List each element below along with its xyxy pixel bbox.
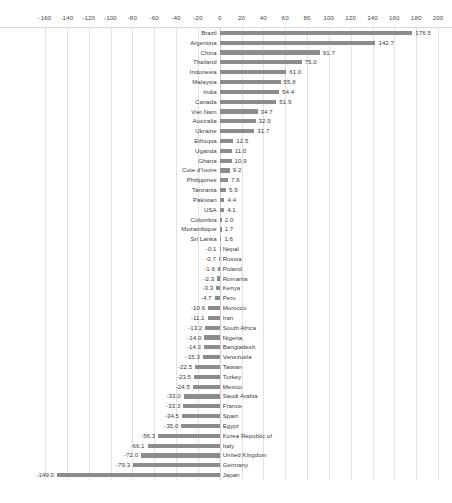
bar bbox=[148, 444, 220, 448]
bar-row: Cote d'Ivoire9.2 bbox=[0, 166, 452, 176]
category-label: Venezuela bbox=[223, 354, 252, 360]
value-label: 12.5 bbox=[236, 138, 248, 144]
category-label: Japan bbox=[223, 472, 240, 478]
x-tick-120: 120 bbox=[345, 14, 356, 21]
value-label: 1.6 bbox=[224, 236, 233, 242]
x-tick-20: 20 bbox=[238, 14, 245, 21]
bar bbox=[220, 109, 258, 113]
x-tick-neg160: -160 bbox=[39, 14, 52, 21]
value-label: 34.7 bbox=[261, 108, 273, 114]
bar bbox=[195, 365, 220, 369]
value-label: 10.9 bbox=[235, 158, 247, 164]
value-label: -15.3 bbox=[186, 354, 200, 360]
bar bbox=[220, 100, 277, 104]
category-label: Ghana bbox=[198, 158, 217, 164]
category-label: Tanzania bbox=[192, 187, 217, 193]
bar bbox=[204, 345, 220, 349]
bar bbox=[216, 286, 220, 290]
category-label: South Africa bbox=[223, 325, 256, 331]
category-label: Brazil bbox=[201, 30, 217, 36]
category-label: Mozambique bbox=[181, 226, 216, 232]
x-tick-40: 40 bbox=[260, 14, 267, 21]
bar bbox=[220, 129, 255, 133]
x-tick-140: 140 bbox=[367, 14, 378, 21]
bar bbox=[220, 139, 234, 143]
bar bbox=[133, 463, 220, 467]
x-tick-neg80: -80 bbox=[128, 14, 137, 21]
value-label: -23.5 bbox=[177, 374, 191, 380]
bar bbox=[220, 50, 320, 54]
category-label: Nigeria bbox=[223, 334, 243, 340]
category-label: Viet Nam bbox=[191, 108, 216, 114]
bar bbox=[218, 267, 220, 271]
category-label: Romania bbox=[223, 276, 248, 282]
bar-row: USA4.1 bbox=[0, 205, 452, 215]
bar-row: Colombia2.0 bbox=[0, 215, 452, 225]
bar-row: Poland-1.6 bbox=[0, 264, 452, 274]
value-label: -35.0 bbox=[164, 423, 178, 429]
value-label: 91.7 bbox=[323, 50, 335, 56]
value-label: 75.0 bbox=[305, 59, 317, 65]
category-label: Poland bbox=[223, 266, 242, 272]
bar-row: Nepal-0.1 bbox=[0, 244, 452, 254]
category-label: Sri Lanka bbox=[190, 236, 216, 242]
bar bbox=[220, 188, 226, 192]
category-label: Thailand bbox=[193, 59, 217, 65]
bar-row: Japan-149.0 bbox=[0, 470, 452, 480]
bar-row: Ghana10.9 bbox=[0, 156, 452, 166]
category-label: Russia bbox=[223, 256, 242, 262]
bar bbox=[220, 41, 376, 45]
bar bbox=[193, 385, 220, 389]
bar bbox=[220, 70, 287, 74]
value-label: -0.7 bbox=[205, 256, 216, 262]
value-label: 4.1 bbox=[227, 207, 236, 213]
bar bbox=[182, 414, 220, 418]
value-label: -4.7 bbox=[201, 295, 212, 301]
bar bbox=[203, 355, 220, 359]
bar bbox=[220, 198, 225, 202]
bar bbox=[181, 424, 219, 428]
value-label: 176.5 bbox=[415, 30, 431, 36]
value-label: -10.6 bbox=[191, 305, 205, 311]
bar-row: Iran-11.1 bbox=[0, 313, 452, 323]
x-tick-neg100: -100 bbox=[104, 14, 117, 21]
bar-row: Korea Republic of-56.3 bbox=[0, 431, 452, 441]
bar-row: Thailand75.0 bbox=[0, 57, 452, 67]
value-label: 55.8 bbox=[284, 79, 296, 85]
bar bbox=[220, 227, 222, 231]
bar bbox=[220, 208, 224, 212]
value-label: -79.3 bbox=[116, 462, 130, 468]
bar bbox=[219, 257, 220, 261]
value-label: 5.9 bbox=[229, 187, 238, 193]
value-label: 2.0 bbox=[225, 217, 234, 223]
bar-row: Canada51.9 bbox=[0, 97, 452, 107]
value-label: -0.1 bbox=[206, 246, 217, 252]
x-tick-200: 200 bbox=[433, 14, 444, 21]
x-tick-80: 80 bbox=[303, 14, 310, 21]
category-label: Egypt bbox=[223, 423, 239, 429]
value-label: 1.7 bbox=[225, 226, 234, 232]
category-label: Kenya bbox=[223, 285, 241, 291]
x-tick-160: 160 bbox=[389, 14, 400, 21]
category-label: Morocco bbox=[223, 305, 247, 311]
bar-row: Taiwan-22.5 bbox=[0, 362, 452, 372]
bar bbox=[220, 218, 222, 222]
bar-row: United Kingdom-72.0 bbox=[0, 451, 452, 461]
bar bbox=[158, 434, 219, 438]
x-tick-180: 180 bbox=[411, 14, 422, 21]
x-tick-neg40: -40 bbox=[171, 14, 180, 21]
bar bbox=[215, 296, 220, 300]
category-label: Australia bbox=[193, 118, 217, 124]
bar-row: Kenya-3.3 bbox=[0, 283, 452, 293]
category-label: Turkey bbox=[223, 374, 242, 380]
value-label: 9.2 bbox=[233, 167, 242, 173]
category-label: Ukraine bbox=[195, 128, 216, 134]
x-tick-neg140: -140 bbox=[60, 14, 73, 21]
category-label: France bbox=[223, 403, 242, 409]
category-label: Canada bbox=[195, 99, 217, 105]
bar bbox=[205, 326, 219, 330]
plot-area: Brazil176.5Argentina142.7China91.7Thaila… bbox=[0, 28, 452, 480]
bar-row: Sri Lanka1.6 bbox=[0, 234, 452, 244]
value-label: -33.3 bbox=[166, 403, 180, 409]
x-tick-0: 0 bbox=[218, 14, 222, 21]
